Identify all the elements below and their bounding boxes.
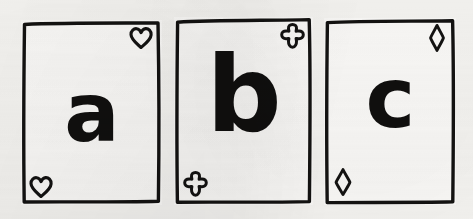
diamond-icon bbox=[332, 167, 354, 197]
card-letter-b: b bbox=[174, 43, 313, 148]
club-icon bbox=[279, 22, 306, 50]
card-letter-a: a bbox=[21, 72, 162, 154]
heart-icon bbox=[28, 175, 54, 199]
heart-icon bbox=[128, 26, 154, 50]
diamond-icon bbox=[427, 23, 447, 53]
playing-card-c[interactable]: c bbox=[324, 18, 456, 205]
card-letter-c: c bbox=[324, 56, 456, 140]
card-row: a b bbox=[0, 0, 473, 219]
playing-card-a[interactable]: a bbox=[21, 20, 162, 205]
club-icon bbox=[182, 170, 209, 198]
playing-card-b[interactable]: b bbox=[174, 17, 313, 205]
